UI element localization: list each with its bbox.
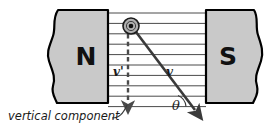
north-pole-label: N	[76, 42, 97, 71]
diagram-canvas: N S v' v θ vertica	[0, 0, 268, 129]
particle-dot-icon	[129, 24, 134, 29]
magnetic-field-diagram: N S v' v θ vertica	[0, 0, 268, 129]
magnet-south-pole: S	[206, 10, 262, 103]
south-pole-label: S	[219, 42, 237, 71]
theta-symbol: θ	[172, 98, 180, 113]
magnet-north-pole: N	[48, 10, 108, 103]
charge-out-of-page	[123, 18, 139, 34]
velocity-label: v	[166, 65, 174, 79]
caption-text: vertical component	[8, 109, 120, 123]
vertical-component-label: v'	[113, 65, 124, 79]
